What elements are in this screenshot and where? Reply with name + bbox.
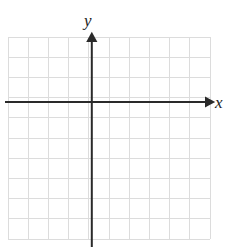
coordinate-plane-graphic xyxy=(0,0,230,247)
coordinate-plane-figure: y x xyxy=(0,0,230,247)
x-axis-label: x xyxy=(215,94,223,111)
y-axis-label: y xyxy=(84,12,92,29)
